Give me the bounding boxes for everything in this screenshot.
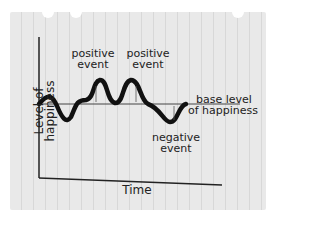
positive-event-label-2: positive event	[123, 48, 173, 70]
x-axis-label: Time	[112, 185, 162, 196]
y-axis-label: Level of happiness	[34, 56, 56, 166]
positive-event-label-1: positive event	[68, 48, 118, 70]
negative-event-label: negative event	[148, 132, 204, 154]
happiness-curve	[39, 80, 186, 122]
baseline-label: base level of happiness	[188, 94, 268, 116]
